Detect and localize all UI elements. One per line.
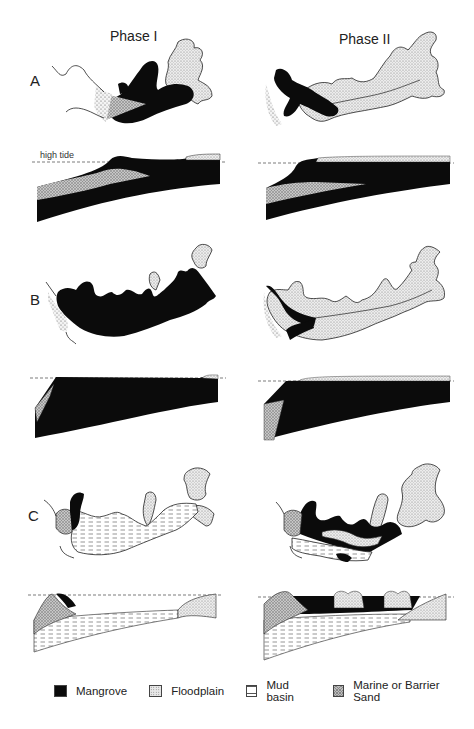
row-label-b: B: [30, 291, 40, 308]
legend-label: Mangrove: [76, 685, 127, 697]
high-tide-label: high tide: [40, 150, 74, 160]
row-label-c: C: [28, 507, 39, 524]
map-c-phase-1: [44, 468, 214, 558]
legend-item-marine-sand: Marine or Barrier Sand: [333, 679, 452, 703]
map-c-phase-2: [276, 464, 444, 562]
mud-basin-swatch-icon: [246, 685, 257, 697]
marine-sand-swatch-icon: [333, 685, 344, 697]
map-a-phase-1: [52, 39, 212, 123]
estuary-diagram: [0, 0, 474, 729]
map-b-phase-1: [46, 244, 216, 344]
section-b-phase-2: [258, 376, 454, 440]
legend-label: Mud basin: [266, 679, 310, 703]
legend-item-mangrove: Mangrove: [54, 685, 127, 697]
column-title-phase-1: Phase I: [110, 28, 157, 44]
section-a-phase-2: [258, 156, 454, 220]
floodplain-swatch-icon: [149, 685, 162, 697]
section-c-phase-2: [258, 591, 454, 660]
legend: Mangrove Floodplain Mud basin Marine or …: [54, 679, 474, 703]
section-b-phase-1: [30, 375, 226, 438]
map-b-phase-2: [264, 246, 445, 340]
section-c-phase-1: [28, 594, 222, 653]
legend-label: Marine or Barrier Sand: [353, 679, 452, 703]
legend-item-floodplain: Floodplain: [149, 685, 224, 697]
mangrove-swatch-icon: [54, 685, 67, 697]
legend-item-mud-basin: Mud basin: [246, 679, 311, 703]
row-label-a: A: [30, 72, 40, 89]
column-title-phase-2: Phase II: [339, 31, 390, 47]
section-a-phase-1: [32, 154, 226, 222]
legend-label: Floodplain: [171, 685, 224, 697]
